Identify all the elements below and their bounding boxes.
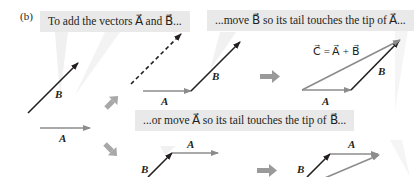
label-a-step3: A⃗ [322,95,338,107]
vector-b-dashed [131,34,181,84]
caption-bubble-intro: To add the vectors A⃗ and B⃗... [40,11,190,32]
panel-label: (b) [20,10,33,22]
label-b-step3-bottom: B⃗ [297,163,313,175]
label-a-step2: A⃗ [161,95,177,107]
caption-bubble-move-a: ...or move A⃗ so its tail touches the ti… [135,110,354,131]
label-b-step3: B⃗ [378,65,394,77]
label-a-step2-bottom: A⃗ [187,138,203,150]
bubble-tail-intro-2 [75,32,120,95]
vector-c-resultant-bottom [320,155,379,177]
label-b-step2: B⃗ [212,70,228,82]
label-b-step2-bottom: B⃗ [141,163,157,175]
bubble-tail-intro [55,32,68,95]
diagonal-up-arrow-icon [102,92,123,113]
resultant-equation: C⃗ = A⃗ + B⃗ [313,45,360,58]
right-arrow-icon [257,164,277,177]
bubble-tail-movea-2 [390,140,410,177]
diagonal-down-arrow-icon [101,140,122,161]
caption-bubble-move-b: ...move B⃗ so its tail touches the tip o… [207,10,414,31]
right-arrow-icon [260,70,280,83]
label-a-original: A⃗ [59,132,75,144]
label-a-step3-bottom: A⃗ [348,138,364,150]
label-b-original: B⃗ [55,88,71,100]
